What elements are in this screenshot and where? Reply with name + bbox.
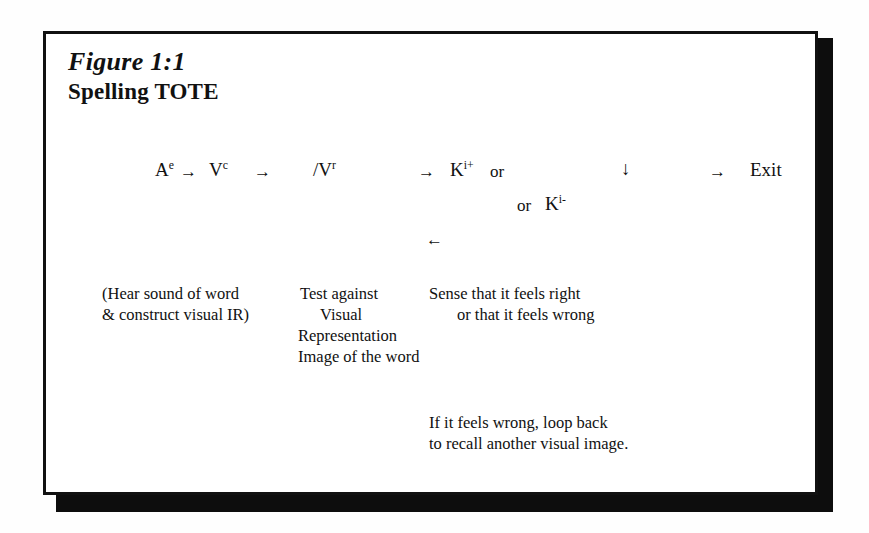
scanned-page: Figure 1:1 Spelling TOTE Ae → Vc → /Vr →… <box>0 0 869 533</box>
figure-number: Figure 1:1 <box>68 46 219 77</box>
diagram-stage-kinesthetic-negative: Ki- <box>545 193 566 215</box>
diagram-exit-label: Exit <box>750 159 782 181</box>
annotation-middle-line-2: Visual <box>298 304 419 325</box>
stage-label-vr: /V <box>313 159 332 180</box>
stage-superscript-i-plus: i+ <box>464 159 474 172</box>
diagram-stage-auditory-external: Ae <box>155 159 174 181</box>
diagram-or-label-2: or <box>517 195 531 217</box>
annotation-left-line-2: & construct visual IR) <box>102 304 249 325</box>
figure-title: Spelling TOTE <box>68 77 219 106</box>
annotation-bottom: If it feels wrong, loop back to recall a… <box>429 412 628 454</box>
annotation-middle-line-4: Image of the word <box>298 346 419 367</box>
annotation-left: (Hear sound of word & construct visual I… <box>102 283 249 325</box>
diagram-down-arrow: ↓ <box>621 158 631 180</box>
annotation-right-line-2: or that it feels wrong <box>429 304 594 325</box>
stage-superscript-i-minus: i- <box>559 193 566 206</box>
diagram-stage-kinesthetic-positive: Ki+ <box>450 159 474 181</box>
stage-superscript-c: c <box>223 159 228 172</box>
annotation-bottom-line-2: to recall another visual image. <box>429 433 628 454</box>
diagram-stage-visual-constructed: Vc <box>209 159 228 181</box>
diagram-arrow-4: → <box>709 161 726 183</box>
figure-heading: Figure 1:1 Spelling TOTE <box>68 46 219 106</box>
annotation-left-line-1: (Hear sound of word <box>102 283 249 304</box>
diagram-arrow-1: → <box>180 161 197 183</box>
figure-box: Figure 1:1 Spelling TOTE Ae → Vc → /Vr →… <box>43 31 818 495</box>
stage-label-k-negative: K <box>545 193 559 214</box>
annotation-right: Sense that it feels right or that it fee… <box>429 283 594 325</box>
annotation-bottom-line-1: If it feels wrong, loop back <box>429 412 628 433</box>
annotation-middle-line-3: Representation <box>298 325 419 346</box>
diagram-arrow-3: → <box>418 161 435 183</box>
annotation-middle: Test against Visual Representation Image… <box>298 283 419 367</box>
annotation-middle-line-1: Test against <box>298 283 419 304</box>
stage-label-a: A <box>155 159 169 180</box>
stage-label-k-positive: K <box>450 159 464 180</box>
diagram-loop-back-arrow: ← <box>426 229 443 251</box>
diagram-or-label-1: or <box>490 161 504 183</box>
diagram-arrow-2: → <box>254 161 271 183</box>
stage-superscript-e: e <box>169 159 174 172</box>
diagram-stage-visual-remembered: /Vr <box>313 159 336 181</box>
annotation-right-line-1: Sense that it feels right <box>429 283 594 304</box>
stage-label-v: V <box>209 159 223 180</box>
stage-superscript-r: r <box>332 159 336 172</box>
